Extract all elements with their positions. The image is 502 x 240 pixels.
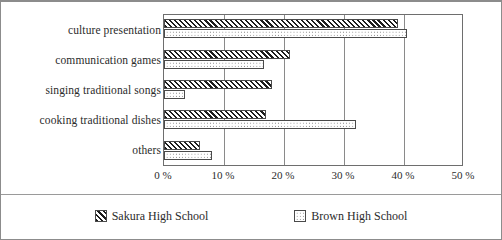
x-tick-label-40: 40 % bbox=[392, 168, 415, 182]
legend-swatch-dotted-icon bbox=[294, 210, 306, 222]
legend-item-sakura-high-school: Sakura High School bbox=[95, 210, 209, 223]
bar-group bbox=[164, 141, 464, 163]
category-label-culture-presentation: culture presentation bbox=[9, 24, 161, 36]
bar-brown bbox=[164, 60, 264, 69]
bar-sakura bbox=[164, 110, 266, 119]
bar-series-container bbox=[164, 15, 462, 165]
bar-brown bbox=[164, 90, 185, 99]
x-tick-label-0: 0 % bbox=[154, 168, 171, 182]
category-label-singing-traditional-songs: singing traditional songs bbox=[9, 84, 161, 96]
bar-group bbox=[164, 80, 464, 102]
chart-legend: Sakura High School Brown High School bbox=[1, 201, 501, 231]
category-axis: culture presentation communication games… bbox=[9, 14, 161, 166]
bar-sakura bbox=[164, 50, 290, 59]
bar-group bbox=[164, 19, 464, 41]
value-axis: 0 %10 %20 %30 %40 %50 % bbox=[163, 168, 463, 186]
bar-group bbox=[164, 50, 464, 72]
bar-sakura bbox=[164, 80, 272, 89]
bar-brown bbox=[164, 151, 212, 160]
x-tick-label-30: 30 % bbox=[332, 168, 355, 182]
category-label-others: others bbox=[9, 144, 161, 156]
bar-brown bbox=[164, 120, 356, 129]
bar-sakura bbox=[164, 141, 200, 150]
category-label-communication-games: communication games bbox=[9, 54, 161, 66]
legend-divider bbox=[1, 194, 501, 195]
bar-brown bbox=[164, 29, 407, 38]
legend-item-brown-high-school: Brown High School bbox=[294, 210, 407, 223]
plot-area bbox=[163, 14, 463, 166]
legend-swatch-hatch-icon bbox=[95, 210, 107, 222]
chart-figure: culture presentation communication games… bbox=[0, 0, 502, 240]
bar-group bbox=[164, 110, 464, 132]
legend-label-sakura-high-school: Sakura High School bbox=[112, 210, 209, 223]
legend-label-brown-high-school: Brown High School bbox=[311, 210, 407, 223]
x-tick-label-50: 50 % bbox=[452, 168, 475, 182]
category-label-cooking-traditional-dishes: cooking traditional dishes bbox=[9, 114, 161, 126]
x-tick-label-20: 20 % bbox=[272, 168, 295, 182]
x-tick-label-10: 10 % bbox=[212, 168, 235, 182]
bar-sakura bbox=[164, 19, 398, 28]
